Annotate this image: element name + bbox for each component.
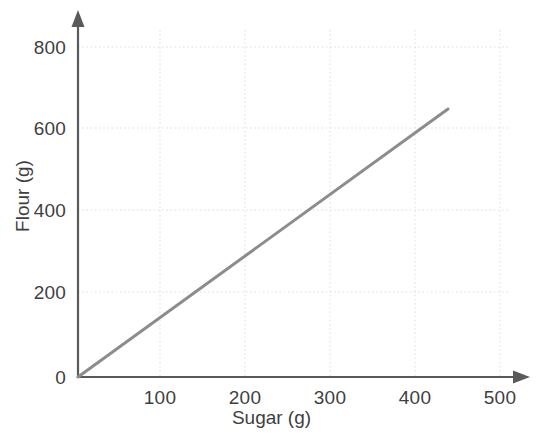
x-axis-arrowhead bbox=[513, 371, 530, 384]
y-tick-label-800: 800 bbox=[12, 38, 66, 57]
y-axis-title: Flour (g) bbox=[13, 160, 32, 232]
x-axis-title: Sugar (g) bbox=[0, 408, 543, 427]
x-tick-label-500: 500 bbox=[484, 388, 516, 407]
series-line-flour-vs-sugar bbox=[78, 109, 448, 377]
y-tick-label-200: 200 bbox=[12, 283, 66, 302]
x-tick-label-100: 100 bbox=[144, 388, 176, 407]
chart-plot-area bbox=[0, 0, 543, 438]
y-axis-arrowhead bbox=[72, 10, 85, 27]
x-tick-label-200: 200 bbox=[229, 388, 261, 407]
axis-lines bbox=[78, 20, 520, 377]
chart-container: 800 600 400 200 0 100 200 300 400 500 Su… bbox=[0, 0, 543, 438]
x-tick-label-300: 300 bbox=[314, 388, 346, 407]
y-tick-label-600: 600 bbox=[12, 119, 66, 138]
grid-lines bbox=[78, 30, 510, 377]
y-tick-label-0: 0 bbox=[12, 368, 66, 387]
x-tick-label-400: 400 bbox=[399, 388, 431, 407]
